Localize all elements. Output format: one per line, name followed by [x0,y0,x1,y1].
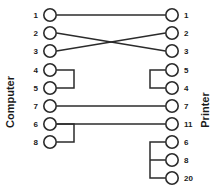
pin-label-right-1: 1 [184,11,189,20]
pin-label-right-4: 4 [184,84,189,93]
pin-label-left-1: 1 [34,11,39,20]
pin-circle-right-1 [166,9,178,21]
right-pin-circles-group [166,9,178,184]
serial-cable-pinout-diagram: 1 2 3 4 5 7 6 8 1 2 3 5 4 7 11 6 8 20 Co… [0,0,220,190]
pin-circle-left-4 [44,64,56,76]
printer-side-label: Printer [199,92,211,128]
pin-circle-right-3 [166,45,178,57]
jumper-right-5-4 [150,70,166,88]
pin-circle-left-5 [44,82,56,94]
pin-label-left-3: 3 [34,47,39,56]
pin-circle-right-7 [166,100,178,112]
pin-circle-left-6 [44,118,56,130]
pin-circle-left-8 [44,136,56,148]
pin-circle-right-4 [166,82,178,94]
pin-circle-right-5 [166,64,178,76]
computer-side-label: Computer [4,75,16,128]
pin-label-right-5: 5 [184,66,189,75]
pin-label-right-7: 7 [184,102,189,111]
pin-label-left-5: 5 [34,84,39,93]
pin-circle-right-8 [166,154,178,166]
right-pin-labels-group: 1 2 3 5 4 7 11 6 8 20 [184,11,193,183]
left-pin-labels-group: 1 2 3 4 5 7 6 8 [34,11,39,147]
pin-circle-right-6 [166,136,178,148]
pin-circle-left-7 [44,100,56,112]
pin-label-right-3: 3 [184,47,189,56]
pin-circle-right-2 [166,27,178,39]
pin-label-right-11: 11 [184,120,193,129]
pin-circle-right-11 [166,118,178,130]
pin-circle-right-20 [166,172,178,184]
pin-label-left-6: 6 [34,120,39,129]
pin-circle-left-1 [44,9,56,21]
pin-label-right-8: 8 [184,156,189,165]
pin-label-left-4: 4 [34,66,39,75]
left-pin-circles-group [44,9,56,148]
pin-label-left-2: 2 [34,29,39,38]
pin-label-right-2: 2 [184,29,189,38]
pin-label-left-8: 8 [34,138,39,147]
pin-label-right-20: 20 [184,174,193,183]
jumper-right-6-8-20 [150,142,166,178]
pin-circle-left-3 [44,45,56,57]
jumper-left-6-8 [57,124,75,142]
jumper-left-4-5 [57,70,75,88]
pin-label-left-7: 7 [34,102,39,111]
pin-label-right-6: 6 [184,138,189,147]
wiring-diagram-canvas: 1 2 3 4 5 7 6 8 1 2 3 5 4 7 11 6 8 20 Co… [0,0,220,190]
pin-circle-left-2 [44,27,56,39]
